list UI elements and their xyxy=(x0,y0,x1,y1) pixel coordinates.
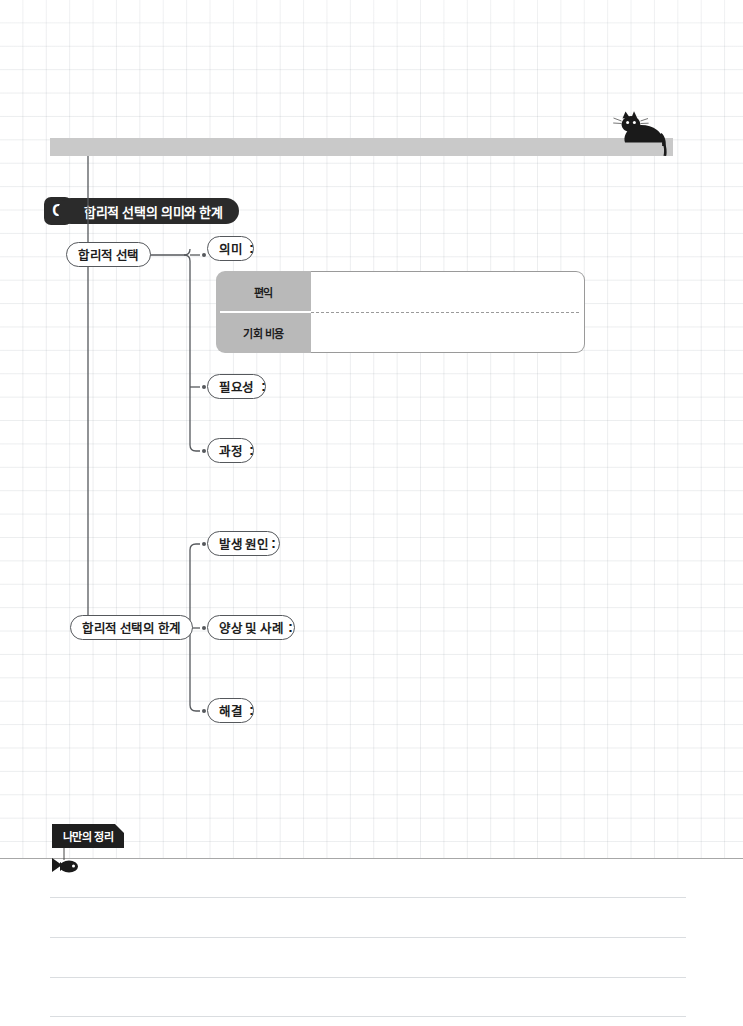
node-meaning[interactable]: 의미 xyxy=(207,236,254,261)
connector-dot xyxy=(202,449,206,453)
node-limits-label: 합리적 선택의 한계 xyxy=(82,618,181,637)
memo-line[interactable] xyxy=(50,897,686,898)
memo-line[interactable] xyxy=(50,977,686,978)
node-cause-colon: : xyxy=(271,534,276,551)
memo-top-rule xyxy=(0,858,743,859)
node-necessity-label: 필요성 xyxy=(219,377,254,396)
node-patterns-label: 양상 및 사례 xyxy=(219,618,283,637)
node-process-label: 과정 xyxy=(219,441,242,460)
worksheet-page: C 합리적 선택의 의미와 한계 합리적 선택 의미 : xyxy=(0,0,743,1026)
node-limits-of-rational-choice[interactable]: 합리적 선택의 한계 xyxy=(70,615,193,640)
connector-dot xyxy=(202,253,206,257)
node-necessity[interactable]: 필요성 xyxy=(207,374,266,399)
node-rational-choice-label: 합리적 선택 xyxy=(78,245,139,264)
node-rational-choice[interactable]: 합리적 선택 xyxy=(66,242,151,267)
mindmap-connectors xyxy=(0,0,743,858)
connector-dot xyxy=(202,385,206,389)
memo-tab-label: 나만의 정리 xyxy=(52,824,124,848)
node-cause-label: 발생 원인 xyxy=(219,534,268,553)
memo-line[interactable] xyxy=(50,937,686,938)
table-row-header-benefit: 편익 xyxy=(216,271,311,312)
node-cause[interactable]: 발생 원인 xyxy=(207,531,280,556)
node-meaning-label: 의미 xyxy=(219,239,242,258)
memo-line[interactable] xyxy=(50,1016,686,1017)
connector-dot xyxy=(202,542,206,546)
node-patterns-colon: : xyxy=(288,618,293,635)
node-process-colon: : xyxy=(249,441,254,458)
node-solution-label: 해결 xyxy=(219,701,242,720)
node-process[interactable]: 과정 xyxy=(207,438,254,463)
table-row-divider xyxy=(311,312,579,313)
memo-tab: 나만의 정리 xyxy=(52,824,124,848)
node-solution[interactable]: 해결 xyxy=(207,698,254,723)
node-meaning-colon: : xyxy=(249,239,254,256)
node-solution-colon: : xyxy=(249,701,254,718)
connector-dot xyxy=(202,709,206,713)
benefit-cost-table: 편익 기회 비용 xyxy=(216,271,585,353)
table-header-column: 편익 기회 비용 xyxy=(216,271,311,353)
connector-dot xyxy=(202,626,206,630)
table-row-header-opportunity-cost: 기회 비용 xyxy=(216,312,311,353)
node-patterns[interactable]: 양상 및 사례 xyxy=(207,615,295,640)
node-necessity-colon: : xyxy=(261,377,266,394)
fish-icon xyxy=(40,848,84,882)
